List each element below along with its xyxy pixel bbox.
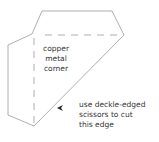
copper-metal-corner-label: copper metal corner	[36, 44, 76, 74]
center-label-line-1: copper	[36, 44, 76, 54]
deckle-scissors-note: use deckle-edged scissors to cut this ed…	[79, 100, 159, 130]
note-line-1: use deckle-edged	[79, 100, 159, 110]
note-line-2: scissors to cut	[79, 110, 159, 120]
note-line-3: this edge	[79, 120, 159, 130]
center-label-line-2: metal	[36, 54, 76, 64]
center-label-line-3: corner	[36, 64, 76, 74]
arrow-pointer-icon	[57, 105, 63, 111]
